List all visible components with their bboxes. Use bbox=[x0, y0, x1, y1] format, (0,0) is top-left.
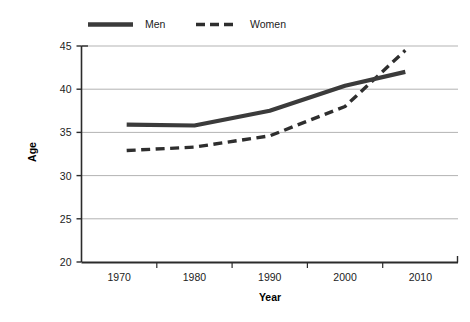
x-axis-title: Year bbox=[259, 291, 281, 303]
line-chart-figure: Men Women 202530354045 Age 1970198019902… bbox=[0, 0, 470, 322]
chart-canvas: Men Women 202530354045 Age 1970198019902… bbox=[0, 0, 470, 322]
y-axis-tick-label: 45 bbox=[60, 40, 72, 52]
y-axis-tick-label: 35 bbox=[60, 126, 72, 138]
legend-label-men: Men bbox=[145, 18, 166, 30]
y-axis-tick-label: 25 bbox=[60, 213, 72, 225]
y-axis-tick-label: 30 bbox=[60, 170, 72, 182]
y-axis-tick-label: 40 bbox=[60, 83, 72, 95]
legend-label-women: Women bbox=[250, 18, 286, 30]
x-axis-tick-label: 1990 bbox=[258, 271, 282, 283]
x-axis-tick-label: 2000 bbox=[333, 271, 357, 283]
x-axis-tick-label: 1970 bbox=[107, 271, 131, 283]
y-axis-title: Age bbox=[26, 142, 38, 162]
x-axis-tick-label: 1980 bbox=[183, 271, 207, 283]
y-axis-tick-label: 20 bbox=[60, 256, 72, 268]
x-axis-tick-label: 2010 bbox=[409, 271, 433, 283]
